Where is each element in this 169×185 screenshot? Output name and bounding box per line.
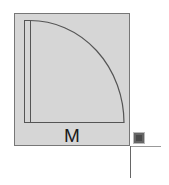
swing-arc [30, 21, 124, 124]
door-leaf [25, 21, 31, 123]
guide-line-horizontal [130, 146, 161, 147]
resize-handle-icon[interactable] [134, 133, 144, 143]
door-swing-icon [0, 0, 169, 185]
door-label: M [14, 126, 130, 146]
diagram-canvas: M [0, 0, 169, 185]
guide-line-vertical [130, 146, 131, 178]
